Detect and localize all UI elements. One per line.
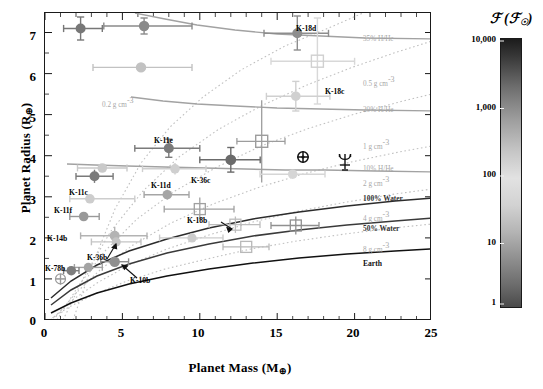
- colorbar-tick-1: 1: [450, 297, 496, 307]
- x-axis-title-text: Planet Mass (M: [189, 360, 279, 375]
- curve-label-1-text: 1 g cm: [363, 143, 383, 151]
- curve-label-4-sup: -3: [383, 210, 390, 219]
- curve-label-earth: Earth: [363, 259, 382, 268]
- curve-label-earth-text: Earth: [363, 259, 382, 268]
- y-tick-4: 4: [10, 151, 36, 167]
- y-tick-1: 1: [10, 274, 36, 290]
- y-tick-6: 6: [10, 69, 36, 85]
- curve-label-50-water: 50% Water: [363, 224, 399, 233]
- x-tick-0: 0: [29, 325, 59, 341]
- colorbar-ticks: [500, 38, 522, 308]
- curve-label-1-density: 1 g cm-3: [363, 138, 389, 151]
- x-axis-title: Planet Mass (M⊕): [90, 360, 390, 376]
- curve-label-100-water: 100% Water: [363, 194, 403, 203]
- curve-label-8-text: 8 g cm: [363, 246, 383, 254]
- colorbar-title-close: ): [528, 11, 533, 26]
- x-tick-25: 25: [416, 325, 446, 341]
- colorbar-title: ℱ (ℱ☉): [466, 10, 543, 27]
- x-tick-10: 10: [183, 325, 213, 341]
- curve-label-50-water-text: 50% Water: [363, 224, 399, 233]
- curve-label-8-sup: -3: [383, 241, 390, 250]
- x-axis-title-close: ): [287, 360, 292, 375]
- earth-symbol-x: ⊕: [279, 366, 287, 376]
- curve-label-1-sup: -3: [383, 138, 390, 147]
- colorbar-tick-10000: 10,000: [450, 34, 496, 44]
- curve-label-2-text: 2 g cm: [363, 180, 383, 188]
- y-tick-3: 3: [10, 192, 36, 208]
- colorbar[interactable]: [500, 38, 522, 308]
- y-tick-2: 2: [10, 233, 36, 249]
- curve-label-35-hhe: 35% H/He: [363, 35, 394, 43]
- curve-label-20-hhe: 20% H/He: [363, 106, 394, 114]
- curve-label-4-text: 4 g cm: [363, 215, 383, 223]
- colorbar-tick-1000: 1,000: [450, 102, 496, 112]
- curve-label-10-hhe-text: 10% H/He: [363, 165, 394, 173]
- colorbar-title-main: ℱ (ℱ: [490, 11, 520, 26]
- colorbar-tick-100: 100: [450, 169, 496, 179]
- curve-label-4-density: 4 g cm-3: [363, 210, 389, 223]
- curve-label-20-hhe-text: 20% H/He: [363, 106, 394, 114]
- curve-label-0p5-density: 0.5 g cm-3: [363, 75, 395, 88]
- curve-label-35-hhe-text: 35% H/He: [363, 35, 394, 43]
- x-tick-20: 20: [338, 325, 368, 341]
- colorbar-tick-10: 10: [450, 237, 496, 247]
- curve-label-8-density: 8 g cm-3: [363, 241, 389, 254]
- curve-label-0p5-text: 0.5 g cm: [363, 80, 388, 88]
- x-tick-5: 5: [106, 325, 136, 341]
- sun-symbol: ☉: [520, 17, 528, 27]
- figure-root: Planet Radius (R⊕) Planet Mass (M⊕) 0 1 …: [0, 0, 543, 389]
- curve-label-10-hhe: 10% H/He: [363, 165, 394, 173]
- curve-label-2-density: 2 g cm-3: [363, 175, 389, 188]
- plot-area: 0.2 g cm-3 K-18d K-18c K-11e K-36c K-11c…: [44, 12, 431, 320]
- x-tick-15: 15: [261, 325, 291, 341]
- y-axis-title-close: ): [18, 103, 33, 108]
- curve-label-100-water-text: 100% Water: [363, 194, 403, 203]
- y-tick-7: 7: [10, 28, 36, 44]
- curve-label-2-sup: -3: [383, 175, 390, 184]
- y-tick-5: 5: [10, 110, 36, 126]
- curve-label-0p5-sup: -3: [388, 75, 395, 84]
